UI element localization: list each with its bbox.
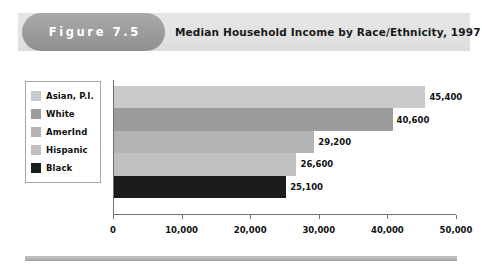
x-axis-line xyxy=(113,214,456,215)
legend-swatch-icon xyxy=(31,109,41,119)
bottom-divider-rule xyxy=(25,256,457,261)
x-axis-tick xyxy=(319,215,320,219)
legend-item-label: White xyxy=(46,109,75,119)
x-axis-tick-label: 0 xyxy=(110,225,116,235)
bar-row: 29,200 xyxy=(114,131,456,153)
chart-area: Asian, P.I. White AmerInd Hispanic Black… xyxy=(0,60,482,240)
figure-title: Median Household Income by Race/Ethnicit… xyxy=(175,13,481,51)
plot-region: 45,400 40,600 29,200 26,600 25,100 010,0… xyxy=(113,80,456,215)
bar-value-label: 29,200 xyxy=(314,137,351,147)
legend-item-white: White xyxy=(31,105,95,123)
legend-item-amerind: AmerInd xyxy=(31,123,95,141)
legend-swatch-icon xyxy=(31,127,41,137)
bar-amerind xyxy=(114,131,314,153)
x-axis-tick-label: 10,000 xyxy=(165,225,198,235)
bar-value-label: 26,600 xyxy=(296,159,333,169)
legend-item-label: Hispanic xyxy=(46,145,88,155)
x-axis-tick xyxy=(387,215,388,219)
bar-row: 25,100 xyxy=(114,176,456,198)
figure-number-label: Figure 7.5 xyxy=(46,25,141,39)
legend-swatch-icon xyxy=(31,91,41,101)
bar-row: 26,600 xyxy=(114,153,456,175)
bar-asian-pi xyxy=(114,86,425,108)
bar-value-label: 25,100 xyxy=(286,182,323,192)
figure-number-pill: Figure 7.5 xyxy=(22,13,165,51)
bar-row: 40,600 xyxy=(114,108,456,130)
x-axis-tick-label: 40,000 xyxy=(371,225,404,235)
legend-item-label: Black xyxy=(46,163,72,173)
bar-white xyxy=(114,108,393,130)
bar-black xyxy=(114,176,286,198)
legend-swatch-icon xyxy=(31,163,41,173)
x-axis-tick-label: 20,000 xyxy=(234,225,267,235)
x-axis-tick xyxy=(250,215,251,219)
x-axis-tick xyxy=(182,215,183,219)
legend-item-hispanic: Hispanic xyxy=(31,141,95,159)
legend-swatch-icon xyxy=(31,145,41,155)
legend-item-label: AmerInd xyxy=(46,127,87,137)
x-axis-tick xyxy=(113,215,114,219)
legend-item-black: Black xyxy=(31,159,95,177)
bar-value-label: 45,400 xyxy=(425,92,462,102)
bar-row: 45,400 xyxy=(114,86,456,108)
bar-value-label: 40,600 xyxy=(393,115,430,125)
x-axis-tick xyxy=(456,215,457,219)
bar-series: 45,400 40,600 29,200 26,600 25,100 xyxy=(114,86,456,198)
x-axis-tick-label: 50,000 xyxy=(440,225,473,235)
x-axis-tick-label: 30,000 xyxy=(302,225,335,235)
chart-legend: Asian, P.I. White AmerInd Hispanic Black xyxy=(25,81,101,183)
legend-item-asian-pi: Asian, P.I. xyxy=(31,87,95,105)
bar-hispanic xyxy=(114,153,296,175)
legend-item-label: Asian, P.I. xyxy=(46,91,94,101)
